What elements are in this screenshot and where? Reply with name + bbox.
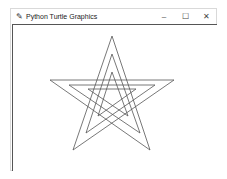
star-drawing — [0, 0, 227, 179]
middle-star — [69, 54, 155, 133]
inner-star — [88, 72, 136, 116]
outer-star — [50, 36, 174, 150]
